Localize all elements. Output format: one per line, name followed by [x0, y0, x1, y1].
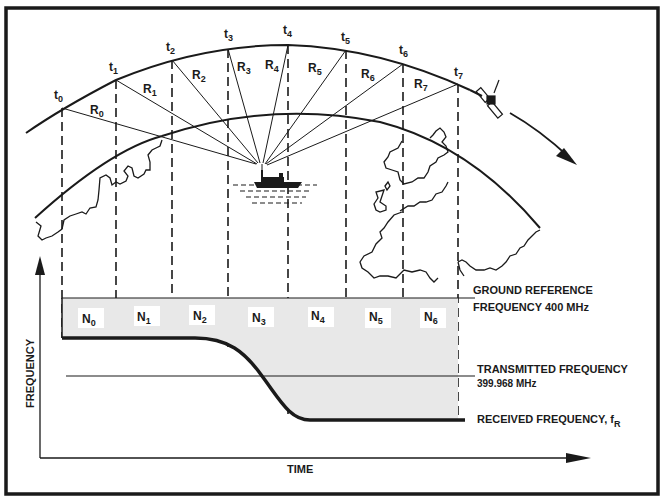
svg-text:R6: R6	[361, 67, 375, 83]
time-axis-label: TIME	[287, 463, 313, 475]
svg-text:t4: t4	[283, 23, 292, 39]
svg-text:t7: t7	[454, 65, 463, 81]
range-labels: R0 R1 R2 R3 R4 R5 R6 R7	[90, 58, 428, 119]
time-axis-arrowhead	[566, 453, 591, 463]
svg-text:t2: t2	[166, 40, 175, 56]
svg-text:R1: R1	[143, 82, 157, 98]
doppler-positioning-diagram: t0 t1 t2 t3 t4 t5 t6 t7 R0 R1 R2 R3 R4 R…	[0, 0, 664, 502]
svg-text:t1: t1	[109, 60, 118, 76]
ground-reference-label-line2: FREQUENCY 400 MHz	[473, 301, 589, 313]
satellite-icon	[470, 80, 502, 118]
coastline-left	[36, 140, 162, 240]
svg-text:R5: R5	[308, 61, 322, 77]
ground-reference-label-line1: GROUND REFERENCE	[473, 284, 593, 296]
svg-text:t5: t5	[341, 30, 350, 46]
frequency-axis-label: FREQUENCY	[24, 338, 36, 408]
transmitted-frequency-label-line1: TRANSMITTED FREQUENCY	[477, 363, 629, 375]
svg-text:R3: R3	[237, 60, 251, 76]
frequency-axis-arrowhead	[35, 256, 45, 275]
svg-text:t3: t3	[224, 27, 233, 43]
svg-text:R7: R7	[414, 77, 428, 93]
svg-text:R0: R0	[90, 103, 104, 119]
svg-text:R2: R2	[192, 68, 206, 84]
orbit-direction-arrowhead	[556, 148, 577, 165]
received-frequency-label: RECEIVED FREQUENCY, fR	[477, 413, 621, 429]
svg-text:t6: t6	[399, 43, 408, 59]
transmitted-frequency-label-line2: 399.968 MHz	[477, 378, 536, 389]
svg-text:t0: t0	[54, 88, 63, 104]
svg-text:R4: R4	[265, 58, 279, 74]
